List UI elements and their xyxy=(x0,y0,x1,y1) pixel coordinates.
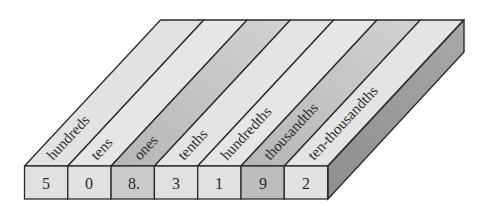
place-value-diagram: hundreds tens ones tenths hundredths tho… xyxy=(0,0,487,206)
digit-hundreds: 5 xyxy=(42,175,50,192)
digit-hundredths: 1 xyxy=(215,175,223,192)
place-value-block: hundreds tens ones tenths hundredths tho… xyxy=(0,0,487,206)
digit-ones: 8. xyxy=(128,175,140,192)
digit-tens: 0 xyxy=(85,175,93,192)
digit-tenths: 3 xyxy=(172,175,180,192)
digit-ten-thousandths: 2 xyxy=(302,175,310,192)
digit-thousandths: 9 xyxy=(259,175,267,192)
